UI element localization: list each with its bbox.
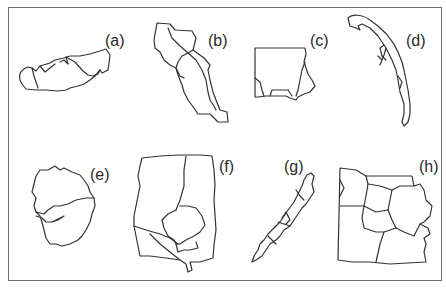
label-d: (d) [406, 33, 426, 49]
shape-c [255, 48, 315, 100]
shape-h [338, 168, 432, 264]
shape-a [20, 49, 110, 91]
shape-d [348, 15, 410, 126]
label-b: (b) [208, 33, 228, 49]
label-e: (e) [90, 167, 110, 183]
label-f: (f) [219, 159, 234, 175]
label-h: (h) [419, 159, 439, 175]
label-c: (c) [310, 33, 329, 49]
shape-g [252, 173, 314, 262]
shape-f [134, 155, 216, 272]
label-a: (a) [105, 33, 125, 49]
label-g: (g) [284, 159, 304, 175]
shape-e [32, 166, 95, 246]
